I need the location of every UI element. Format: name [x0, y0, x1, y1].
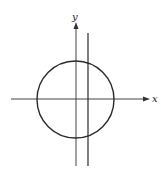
- x-axis-arrow-icon: [143, 97, 150, 102]
- y-axis-arrow-icon: [74, 22, 79, 29]
- y-axis-label: y: [71, 11, 78, 22]
- diagram-canvas: x y: [0, 0, 161, 177]
- coordinate-diagram: x y: [0, 0, 161, 177]
- x-axis-label: x: [152, 93, 158, 104]
